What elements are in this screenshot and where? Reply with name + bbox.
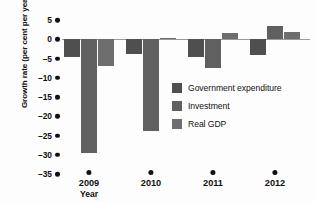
y-tick-label: –30 [22,150,52,160]
y-tick-marker [55,152,60,157]
legend-item: Government expenditure [172,80,282,96]
bar [160,38,176,39]
bar [250,39,266,54]
bar-chart: Growth rate (per cent per year) 50–5–10–… [0,0,316,202]
bar [205,39,221,68]
x-tick-label: 2009 [59,178,119,188]
x-tick-marker [148,170,153,175]
x-tick-label: 2012 [245,178,305,188]
y-tick-marker [55,56,60,61]
x-tick-marker [210,170,215,175]
bar [64,39,80,56]
y-tick-label: –20 [22,111,52,121]
x-axis-title: Year [59,189,119,199]
y-tick-label: –5 [22,54,52,64]
legend-item: Investment [172,98,282,114]
y-tick-marker [55,37,60,42]
y-tick-label: –10 [22,73,52,83]
y-tick-label: 5 [22,15,52,25]
y-tick-label: –15 [22,92,52,102]
bar [81,39,97,153]
y-tick-marker [55,95,60,100]
legend-label: Real GDP [188,119,226,129]
bar [284,32,300,40]
legend-swatch-icon [172,83,182,93]
y-tick-label: 0 [22,34,52,44]
y-tick-marker [55,133,60,138]
legend-label: Government expenditure [188,83,282,93]
y-tick-marker [55,114,60,119]
legend-item: Real GDP [172,116,282,132]
x-tick-label: 2010 [121,178,181,188]
legend-swatch-icon [172,119,182,129]
x-tick-label: 2011 [183,178,243,188]
legend-label: Investment [188,101,230,111]
chart-legend: Government expenditureInvestmentReal GDP [172,80,282,134]
bar [188,39,204,56]
x-tick-marker [272,170,277,175]
y-tick-marker [55,18,60,23]
legend-swatch-icon [172,101,182,111]
bar [126,39,142,54]
bar [143,39,159,131]
y-tick-label: –35 [22,169,52,179]
y-tick-label: –25 [22,131,52,141]
y-tick-marker [55,172,60,177]
bar [98,39,114,66]
bar [267,26,283,39]
y-tick-marker [55,75,60,80]
x-tick-marker [86,170,91,175]
bar [222,33,238,39]
